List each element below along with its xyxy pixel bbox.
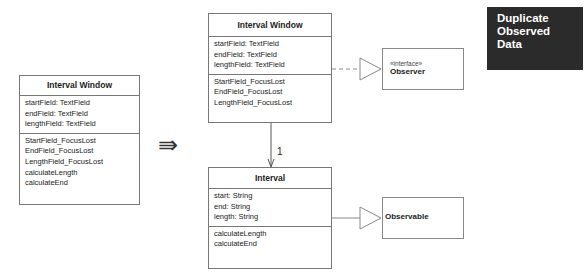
generalization-arrowhead (360, 207, 381, 229)
class-attributes: startField: TextField endField: TextFiel… (209, 37, 331, 75)
method: calculateEnd (214, 239, 331, 250)
class-methods: calculateLength calculateEnd (209, 227, 331, 253)
class-methods: StartField_FocusLost EndField_FocusLost … (209, 75, 331, 112)
class-name: Observable (385, 212, 463, 221)
method: calculateLength (214, 229, 331, 240)
method: LengthField_FocusLost (214, 98, 331, 109)
attribute: endField: TextField (214, 50, 331, 61)
attribute: lengthField: TextField (214, 60, 331, 71)
after-interval-window-class: Interval Window startField: TextField en… (208, 13, 332, 123)
interval-class: Interval start: String end: String lengt… (208, 167, 332, 269)
badge-line-2: Observed Data (497, 25, 573, 51)
method: calculateLength (25, 168, 139, 179)
class-title: Interval (209, 168, 331, 189)
badge-line-1: Duplicate (497, 12, 573, 25)
method: EndField_FocusLost (25, 146, 139, 157)
attribute: startField: TextField (214, 39, 331, 50)
observable-class: Observable (382, 197, 464, 239)
stereotype-label: «interface» (390, 60, 463, 67)
attribute: end: String (214, 202, 331, 213)
class-title: Interval Window (20, 76, 139, 96)
observer-interface: «interface» Observer (382, 48, 464, 90)
refactoring-arrow-icon: ⇛ (158, 133, 178, 157)
method: calculateEnd (25, 178, 139, 189)
class-attributes: start: String end: String length: String (209, 189, 331, 227)
method: LengthField_FocusLost (25, 157, 139, 168)
interface-name: Observer (390, 67, 463, 76)
class-methods: StartField_FocusLost EndField_FocusLost … (20, 134, 139, 192)
realization-arrowhead (360, 58, 381, 80)
attribute: lengthField: TextField (25, 119, 139, 130)
method: EndField_FocusLost (214, 87, 331, 98)
attribute: endField: TextField (25, 109, 139, 120)
attribute: startField: TextField (25, 98, 139, 109)
pattern-badge: Duplicate Observed Data (487, 7, 583, 70)
association-multiplicity: 1 (277, 146, 283, 157)
attribute: start: String (214, 191, 331, 202)
class-title: Interval Window (209, 14, 331, 37)
attribute: length: String (214, 212, 331, 223)
method: StartField_FocusLost (214, 77, 331, 88)
class-attributes: startField: TextField endField: TextFiel… (20, 96, 139, 134)
method: StartField_FocusLost (25, 136, 139, 147)
before-interval-window-class: Interval Window startField: TextField en… (19, 75, 140, 205)
